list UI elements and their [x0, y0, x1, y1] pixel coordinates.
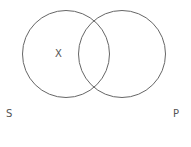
label-p: P [173, 109, 179, 119]
venn-diagram [0, 0, 191, 147]
circle-s [23, 11, 110, 98]
x-marker: X [55, 49, 62, 59]
circle-p [79, 11, 166, 98]
label-s: S [6, 109, 12, 119]
